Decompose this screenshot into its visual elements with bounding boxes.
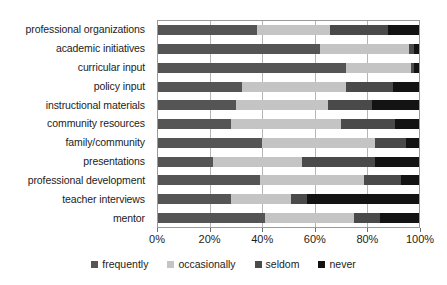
bar-row: [158, 152, 419, 171]
x-axis-tick: [157, 228, 158, 232]
bar-row: [158, 21, 419, 40]
bar-segment-frequently: [158, 63, 346, 73]
bar-segment-frequently: [158, 175, 260, 185]
legend-swatch-icon: [91, 261, 98, 268]
bar-row: [158, 208, 419, 227]
y-axis-label-text: policy input: [94, 81, 145, 92]
bar-track: [158, 63, 419, 73]
y-axis-label: mentor: [0, 209, 151, 228]
bar-track: [158, 82, 419, 92]
y-axis-label: presentations: [0, 152, 151, 171]
bar-segment-occasionally: [265, 213, 354, 223]
legend-item[interactable]: occasionally: [167, 258, 235, 270]
bar-row: [158, 115, 419, 134]
bar-segment-occasionally: [231, 194, 291, 204]
bar-track: [158, 157, 419, 167]
y-axis-label-text: curricular input: [78, 62, 145, 73]
bar-segment-seldom: [341, 119, 396, 129]
bar-segment-frequently: [158, 194, 231, 204]
plot-area: [157, 20, 420, 228]
x-axis-tick-label: 60%: [304, 233, 326, 245]
legend-swatch-icon: [255, 261, 262, 268]
legend-item[interactable]: seldom: [255, 258, 300, 270]
bar-segment-never: [307, 194, 419, 204]
bar-segment-seldom: [375, 138, 406, 148]
bar-track: [158, 119, 419, 129]
bar-track: [158, 194, 419, 204]
y-axis-label: professional organizations: [0, 20, 151, 39]
y-axis-label-text: teacher interviews: [62, 194, 145, 205]
y-axis-label-text: professional development: [28, 175, 145, 186]
x-axis-tick: [367, 228, 368, 232]
bars-layer: [158, 21, 419, 227]
bar-segment-frequently: [158, 119, 231, 129]
bar-segment-occasionally: [236, 100, 327, 110]
legend-label: frequently: [102, 258, 148, 270]
bar-segment-occasionally: [262, 138, 374, 148]
y-axis-label-text: community resources: [47, 118, 145, 129]
bar-segment-seldom: [328, 100, 372, 110]
bar-segment-occasionally: [346, 63, 411, 73]
y-axis-label: family/community: [0, 133, 151, 152]
bar-segment-seldom: [364, 175, 401, 185]
bar-segment-frequently: [158, 138, 262, 148]
stacked-bar-chart: professional organizationsacademic initi…: [0, 0, 447, 285]
y-axis-label: professional development: [0, 171, 151, 190]
y-axis-label: academic initiatives: [0, 39, 151, 58]
bar-segment-never: [406, 138, 419, 148]
bar-row: [158, 77, 419, 96]
y-axis-label-text: instructional materials: [46, 100, 145, 111]
bar-segment-seldom: [346, 82, 393, 92]
bar-segment-never: [375, 157, 419, 167]
legend-item[interactable]: never: [318, 258, 355, 270]
x-axis: 0%20%40%60%80%100%: [157, 228, 420, 250]
y-axis-label-text: family/community: [66, 137, 146, 148]
legend-label: never: [329, 258, 355, 270]
bar-track: [158, 25, 419, 35]
bar-track: [158, 44, 419, 54]
x-axis-tick-label: 80%: [356, 233, 378, 245]
bar-segment-occasionally: [260, 175, 364, 185]
y-axis-label-text: mentor: [113, 213, 145, 224]
x-axis-tick-label: 0%: [149, 233, 165, 245]
bar-segment-frequently: [158, 25, 257, 35]
legend-swatch-icon: [167, 261, 174, 268]
bar-segment-seldom: [330, 25, 387, 35]
bar-segment-never: [401, 175, 419, 185]
bar-segment-never: [380, 213, 419, 223]
bar-track: [158, 138, 419, 148]
bar-segment-occasionally: [231, 119, 341, 129]
bar-track: [158, 100, 419, 110]
y-axis-label-text: presentations: [83, 156, 145, 167]
bar-segment-frequently: [158, 100, 236, 110]
bar-segment-never: [393, 82, 419, 92]
bar-segment-never: [414, 63, 419, 73]
y-axis-label: curricular input: [0, 58, 151, 77]
x-axis-tick-label: 100%: [406, 233, 434, 245]
y-axis-label: instructional materials: [0, 96, 151, 115]
bar-segment-seldom: [302, 157, 375, 167]
legend-item[interactable]: frequently: [91, 258, 148, 270]
bar-row: [158, 190, 419, 209]
x-axis-tick: [420, 228, 421, 232]
legend-label: seldom: [266, 258, 300, 270]
x-axis-tick: [315, 228, 316, 232]
y-axis-label-text: academic initiatives: [56, 43, 145, 54]
bar-row: [158, 40, 419, 59]
legend-label: occasionally: [178, 258, 235, 270]
y-axis-label-text: professional organizations: [26, 24, 145, 35]
bar-segment-seldom: [291, 194, 307, 204]
bar-segment-occasionally: [257, 25, 330, 35]
x-axis-tick: [210, 228, 211, 232]
bar-segment-occasionally: [242, 82, 346, 92]
bar-segment-frequently: [158, 82, 242, 92]
bar-segment-never: [414, 44, 419, 54]
bar-segment-frequently: [158, 157, 213, 167]
bar-segment-occasionally: [213, 157, 302, 167]
bar-row: [158, 171, 419, 190]
y-axis-label: community resources: [0, 115, 151, 134]
bar-track: [158, 213, 419, 223]
y-axis-label: teacher interviews: [0, 190, 151, 209]
bar-segment-frequently: [158, 44, 320, 54]
bar-segment-never: [372, 100, 419, 110]
